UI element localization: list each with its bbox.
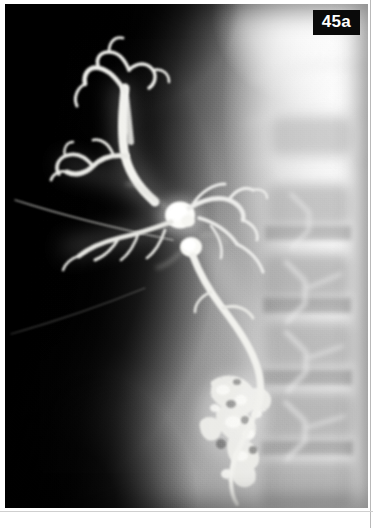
catheter-wire — [11, 200, 173, 334]
right-hepatic-radicles — [189, 184, 267, 272]
figure-page: 45a — [0, 0, 373, 528]
figure-label: 45a — [313, 10, 360, 35]
page-right-edge-line — [370, 0, 371, 528]
radiograph-plate: 45a — [5, 4, 368, 508]
page-bottom-edge-line — [0, 511, 373, 512]
anatomy-overlay — [5, 4, 368, 508]
